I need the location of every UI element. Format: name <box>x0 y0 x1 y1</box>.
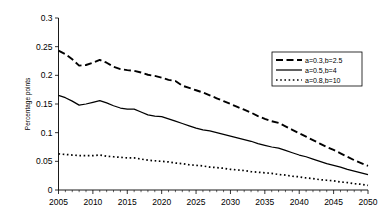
x-tick-label: 2030 <box>221 197 240 207</box>
y-axis-title-text: Percentage points <box>24 77 32 130</box>
y-axis-title: Percentage points <box>24 77 32 130</box>
chart-svg: 00.050.10.150.20.250.3200520102015202020… <box>0 0 386 219</box>
y-tick-label: 0.25 <box>36 42 53 52</box>
y-tick-label: 0 <box>48 185 53 195</box>
legend-label-0: a=0.3,b=2.5 <box>305 57 342 64</box>
legend-label-1: a=0.5,b=4 <box>305 67 337 74</box>
y-tick-label: 0.15 <box>36 99 53 109</box>
x-tick-label: 2015 <box>118 197 137 207</box>
y-tick-label: 0.2 <box>41 70 53 80</box>
x-tick-label: 2020 <box>152 197 171 207</box>
axes <box>55 18 368 194</box>
y-tick-label: 0.05 <box>36 156 53 166</box>
chart-legend: a=0.3,b=2.5a=0.5,b=4a=0.8,b=10 <box>272 52 362 86</box>
x-tick-label: 2050 <box>359 197 378 207</box>
x-tick-label: 2040 <box>290 197 309 207</box>
x-tick-label: 2035 <box>255 197 274 207</box>
x-tick-label: 2010 <box>83 197 102 207</box>
legend-label-2: a=0.8,b=10 <box>305 77 341 84</box>
series-line-1 <box>59 95 369 174</box>
y-tick-label: 0.3 <box>41 13 53 23</box>
x-tick-label: 2005 <box>49 197 68 207</box>
y-tick-label: 0.1 <box>41 128 53 138</box>
x-tick-label: 2045 <box>324 197 343 207</box>
x-tick-label: 2025 <box>187 197 206 207</box>
series-line-2 <box>59 154 369 186</box>
tick-labels: 00.050.10.150.20.250.3200520102015202020… <box>36 13 378 207</box>
line-chart: 00.050.10.150.20.250.3200520102015202020… <box>0 0 386 219</box>
